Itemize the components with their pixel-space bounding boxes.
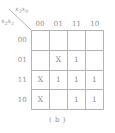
row-header-0: 00 bbox=[3, 30, 29, 50]
column-header-3: 10 bbox=[86, 18, 104, 30]
kmap-cell-3-0[interactable]: X bbox=[32, 90, 50, 110]
row-header-2: 11 bbox=[3, 70, 29, 90]
kmap-cell-3-2[interactable]: 1 bbox=[68, 90, 86, 110]
kmap-cell-1-2[interactable]: 1 bbox=[68, 51, 86, 71]
kmap-cell-2-2[interactable]: 1 bbox=[68, 71, 86, 91]
kmap-grid: X 1 X 1 1 1 X 1 1 bbox=[31, 30, 104, 110]
kmap-row-1: X 1 bbox=[32, 51, 104, 71]
row-header-3: 10 bbox=[3, 90, 29, 110]
row-header-1: 01 bbox=[3, 50, 29, 70]
kmap-cell-1-0[interactable] bbox=[32, 51, 50, 71]
kmap-cell-1-1[interactable]: X bbox=[50, 51, 68, 71]
kmap-cell-0-1[interactable] bbox=[50, 31, 68, 51]
karnaugh-map-figure: x3x0 x2x1 00 01 11 10 00 01 11 10 X 1 X … bbox=[0, 0, 115, 133]
kmap-cell-0-0[interactable] bbox=[32, 31, 50, 51]
column-header-2: 11 bbox=[68, 18, 86, 30]
kmap-cell-2-3[interactable]: 1 bbox=[86, 71, 104, 91]
row-variable-label: x2x1 bbox=[1, 18, 14, 27]
kmap-cell-3-3[interactable]: 1 bbox=[86, 90, 104, 110]
column-header-0: 00 bbox=[31, 18, 49, 30]
kmap-cell-0-2[interactable] bbox=[68, 31, 86, 51]
row-header-column: 00 01 11 10 bbox=[3, 30, 29, 110]
kmap-row-3: X 1 1 bbox=[32, 90, 104, 110]
kmap-cell-2-0[interactable]: X bbox=[32, 71, 50, 91]
kmap-row-0 bbox=[32, 31, 104, 51]
kmap-row-2: X 1 1 1 bbox=[32, 71, 104, 91]
column-header-1: 01 bbox=[49, 18, 67, 30]
row-variable-subscript-2: 1 bbox=[11, 21, 14, 26]
kmap-cell-1-3[interactable] bbox=[86, 51, 104, 71]
column-variable-subscript-2: 0 bbox=[25, 9, 28, 14]
kmap-cell-3-1[interactable] bbox=[50, 90, 68, 110]
kmap-cell-0-3[interactable] bbox=[86, 31, 104, 51]
column-header-row: 00 01 11 10 bbox=[31, 18, 104, 30]
kmap-corner-header: x3x0 x2x1 bbox=[0, 0, 31, 30]
figure-caption: ( b ) bbox=[0, 116, 115, 124]
column-variable-label: x3x0 bbox=[15, 6, 28, 15]
kmap-cell-2-1[interactable]: 1 bbox=[50, 71, 68, 91]
